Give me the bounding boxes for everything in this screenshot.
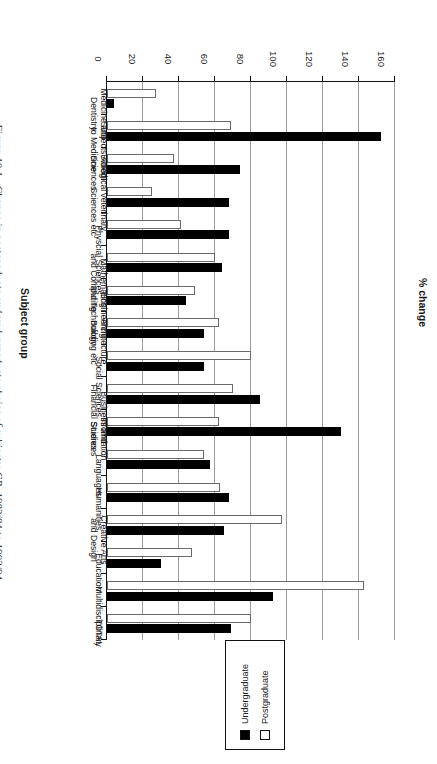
bar-undergraduate [107,460,210,469]
value-axis-line [107,81,395,82]
bar-postgraduate [107,154,174,163]
bar-postgraduate [107,253,215,262]
bar-undergraduate [107,427,341,436]
chart-legend: Undergraduate Postgraduate [225,640,285,750]
bar-undergraduate [107,263,222,272]
legend-item-postgraduate: Postgraduate [260,641,270,740]
value-axis-tick-label: 40 [163,54,174,65]
bar-postgraduate [107,220,181,229]
value-axis-tick [214,76,215,82]
bar-undergraduate [107,165,240,174]
bar-undergraduate [107,296,186,305]
category-label: BiologicalSciences [88,154,107,191]
value-axis-tick-label: 160 [376,51,387,67]
bar-postgraduate [107,351,251,360]
gridline [286,82,287,640]
value-axis-title: % change [417,278,429,327]
bar-postgraduate [107,450,204,459]
bar-undergraduate [107,559,161,568]
figure-rotator: Figure 10.1Change in postgraduate and un… [0,0,437,764]
value-axis-tick-label: 20 [127,54,138,65]
legend-swatch-undergraduate-icon [240,730,250,740]
legend-label-postgraduate: Postgraduate [260,670,270,724]
figure-caption-text: Change in postgraduate and undergraduate… [0,186,4,580]
bar-undergraduate [107,198,229,207]
bar-undergraduate [107,592,273,601]
bar-undergraduate [107,624,231,633]
value-axis-tick [178,76,179,82]
bar-postgraduate [107,187,152,196]
bar-undergraduate [107,526,224,535]
value-axis-tick-label: 60 [199,54,210,65]
bar-undergraduate [107,132,381,141]
bar-postgraduate [107,417,219,426]
bar-postgraduate [107,614,251,623]
legend-swatch-postgraduate-icon [260,730,270,740]
bar-postgraduate [107,483,220,492]
category-axis-title: Subject group [19,288,31,359]
bar-undergraduate [107,230,229,239]
value-axis-tick [142,76,143,82]
value-axis-tick-label: 100 [268,51,279,67]
legend-label-undergraduate: Undergraduate [240,664,250,724]
value-axis-tick-label: 0 [93,56,104,61]
plot-area: 020406080100120140160 Medicine andDentis… [107,82,395,640]
gridline [250,82,251,640]
figure-caption: Figure 10.1Change in postgraduate and un… [0,124,4,764]
category-label: TOTAL [93,619,103,646]
value-axis-tick-label: 80 [235,54,246,65]
figure-number: Figure 10.1 [0,124,4,177]
bar-postgraduate [107,286,195,295]
bar-undergraduate [107,362,204,371]
bar-undergraduate [107,329,204,338]
value-axis-tick-label: 140 [340,51,351,67]
value-axis-tick [106,76,107,82]
bar-postgraduate [107,318,219,327]
value-axis-tick [394,76,395,82]
bar-postgraduate [107,89,156,98]
gridline [358,82,359,640]
value-axis-tick [286,76,287,82]
bar-postgraduate [107,384,233,393]
value-axis-tick [358,76,359,82]
bar-postgraduate [107,515,282,524]
bar-postgraduate [107,122,231,131]
bar-postgraduate [107,548,192,557]
bar-undergraduate [107,395,260,404]
value-axis-tick-label: 120 [304,51,315,67]
bar-undergraduate [107,493,229,502]
gridline [394,82,395,640]
legend-item-undergraduate: Undergraduate [240,641,250,740]
gridline [322,82,323,640]
value-axis-tick [322,76,323,82]
bar-postgraduate [107,581,364,590]
value-axis-tick [250,76,251,82]
